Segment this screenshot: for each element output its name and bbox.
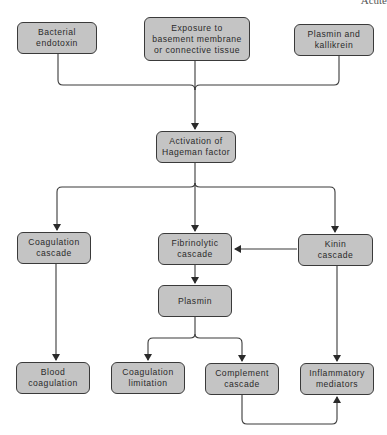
node-blood-coagulation: Blood coagulation: [16, 362, 90, 394]
edge-hageman-to-coagulation-cascade: [57, 183, 195, 230]
edge-hageman-to-kinin: [195, 183, 335, 232]
node-plasmin: Plasmin: [158, 285, 232, 317]
edge-plasmin-kallikrein-to-hageman: [195, 56, 339, 90]
node-exposure: Exposure to basement membrane or connect…: [144, 17, 250, 61]
node-coagulation-cascade: Coagulation cascade: [17, 232, 91, 264]
edge-plasmin-to-coagulation-limitation: [148, 317, 195, 360]
node-hageman-factor: Activation of Hageman factor: [156, 131, 236, 163]
edge-complement-to-inflammatory: [242, 395, 337, 424]
node-complement-cascade: Complement cascade: [205, 363, 279, 395]
node-fibrinolytic-cascade: Fibrinolytic cascade: [158, 233, 232, 265]
edge-plasmin-to-complement: [195, 334, 242, 361]
node-inflammatory-mediators: Inflammatory mediators: [300, 363, 374, 395]
node-kinin-cascade: Kinin cascade: [298, 234, 373, 266]
node-coagulation-limitation: Coagulation limitation: [111, 362, 185, 394]
node-bacterial-endotoxin: Bacterial endotoxin: [17, 22, 97, 54]
node-plasmin-kallikrein: Plasmin and kallikrein: [294, 24, 374, 56]
